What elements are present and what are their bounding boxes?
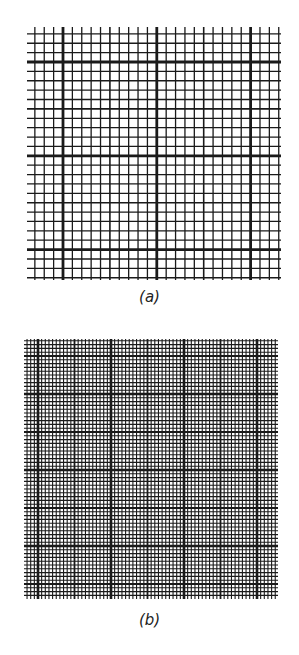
- grid-panel-a: [27, 27, 281, 280]
- caption-a: (a): [0, 288, 299, 306]
- grid-panel-b: [24, 339, 278, 599]
- figure: (a) (b): [0, 0, 299, 655]
- caption-b: (b): [0, 611, 299, 629]
- graph-paper-grids: [0, 0, 299, 655]
